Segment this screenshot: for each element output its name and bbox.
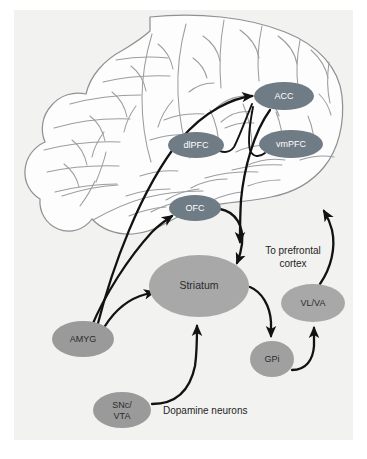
node-vmpfc[interactable]: vmPFC xyxy=(259,130,323,158)
connection-sncvta-to-striatum xyxy=(152,326,197,404)
connection-amyg-to-striatum xyxy=(101,292,154,333)
connection-vlva-to-prefrontal xyxy=(320,211,333,284)
diagram-canvas: ACCvmPFCdlPFCOFCStriatumAMYGVL/VAGPiSNc/… xyxy=(0,0,367,459)
node-striatum[interactable]: Striatum xyxy=(149,255,249,317)
label-dopamine-neurons-line-0: Dopamine neurons xyxy=(163,405,248,416)
node-snc_vta[interactable]: SNc/VTA xyxy=(93,392,151,428)
label-to-prefrontal-cortex-line-1: cortex xyxy=(279,258,306,269)
label-dopamine-neurons: Dopamine neurons xyxy=(163,405,248,416)
node-ofc[interactable]: OFC xyxy=(169,195,221,221)
node-label-vmpfc: vmPFC xyxy=(276,139,306,149)
node-label-snc_vta-line-1: VTA xyxy=(114,411,131,421)
node-vlva[interactable]: VL/VA xyxy=(281,284,345,322)
node-label-striatum: Striatum xyxy=(179,279,218,291)
node-amyg[interactable]: AMYG xyxy=(52,321,114,357)
node-label-snc_vta-line-0: SNc/ xyxy=(112,400,132,410)
figure-container: ACCvmPFCdlPFCOFCStriatumAMYGVL/VAGPiSNc/… xyxy=(0,0,367,459)
node-label-gpi: GPi xyxy=(264,354,279,364)
node-label-vlva: VL/VA xyxy=(301,298,326,308)
label-to-prefrontal-cortex-line-0: To prefrontal xyxy=(265,245,321,256)
connection-striatum-to-gpi xyxy=(250,287,271,336)
node-gpi[interactable]: GPi xyxy=(250,341,294,377)
node-acc[interactable]: ACC xyxy=(254,82,314,110)
node-label-ofc: OFC xyxy=(186,203,205,213)
connection-gpi-to-vlva xyxy=(292,328,314,370)
node-label-amyg: AMYG xyxy=(70,334,97,344)
label-to-prefrontal-cortex: To prefrontalcortex xyxy=(265,245,321,269)
node-label-acc: ACC xyxy=(274,91,294,101)
node-dlpfc[interactable]: dlPFC xyxy=(168,132,224,158)
node-label-dlpfc: dlPFC xyxy=(183,140,209,150)
